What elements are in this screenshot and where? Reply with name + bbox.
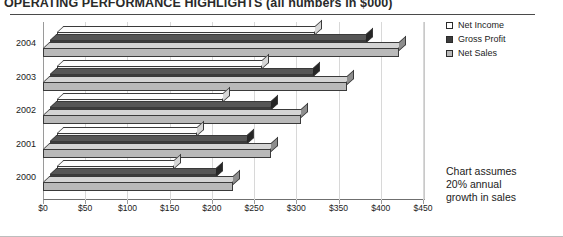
x-axis-tick — [127, 200, 128, 204]
y-axis-label-2004: 2004 — [2, 38, 36, 48]
x-axis-tick — [254, 200, 255, 204]
bar-end-cap — [247, 128, 254, 143]
bar-group-2003 — [43, 59, 425, 93]
x-axis-label-usd-450: $450 — [413, 203, 432, 213]
bar-group-2002 — [43, 92, 425, 126]
bar-group-2000 — [43, 159, 425, 193]
bar-end-cap — [347, 69, 354, 84]
bar-end-cap — [233, 170, 240, 185]
x-axis-tick — [381, 200, 382, 204]
x-axis-tick — [43, 200, 44, 204]
bottom-divider — [0, 236, 563, 237]
bar-group-2004 — [43, 25, 425, 59]
annotation-line-1: Chart assumes — [446, 165, 558, 178]
bar-2000-net-sales[interactable] — [43, 182, 233, 191]
bar-face — [43, 149, 271, 158]
annotation-line-2: 20% annual — [446, 178, 558, 191]
legend-item-net-income[interactable]: Net Income — [446, 19, 506, 31]
x-axis-label-usd-250: $250 — [245, 203, 264, 213]
chart-title: OPERATING PERFORMANCE HIGHLIGHTS (all nu… — [4, 0, 393, 10]
bar-2004-net-sales[interactable] — [43, 48, 399, 57]
x-axis-label-usd-350: $350 — [329, 203, 348, 213]
bar-2003-net-sales[interactable] — [43, 82, 347, 91]
legend-item-net-sales[interactable]: Net Sales — [446, 47, 506, 59]
bar-face — [43, 115, 301, 124]
x-axis-tick — [85, 200, 86, 204]
bar-end-cap — [399, 36, 406, 51]
legend-swatch-net-income-icon — [446, 22, 453, 29]
legend-swatch-net-sales-icon — [446, 50, 453, 57]
x-axis-label-usd-50: $50 — [78, 203, 92, 213]
x-axis-tick — [423, 200, 424, 204]
x-axis-label-usd-0: $0 — [38, 203, 48, 213]
chart-title-subtitle: (all numbers in $000) — [266, 0, 392, 10]
bar-end-cap — [301, 103, 308, 118]
annotation-line-3: growth in sales — [446, 191, 558, 204]
x-axis-label-usd-300: $300 — [287, 203, 306, 213]
bar-face — [43, 48, 399, 57]
y-axis-label-2000: 2000 — [2, 172, 36, 182]
bar-2002-net-sales[interactable] — [43, 115, 301, 124]
x-axis-tick — [339, 200, 340, 204]
legend-label-net-income: Net Income — [458, 20, 504, 30]
x-axis-label-usd-200: $200 — [202, 203, 221, 213]
chart-canvas: OPERATING PERFORMANCE HIGHLIGHTS (all nu… — [0, 0, 563, 237]
x-axis-tick — [296, 200, 297, 204]
x-axis-label-usd-100: $100 — [118, 203, 137, 213]
title-divider — [10, 14, 535, 15]
bar-2001-net-sales[interactable] — [43, 149, 271, 158]
bar-end-cap — [271, 136, 278, 151]
legend-swatch-gross-profit-icon — [446, 36, 453, 43]
chart-title-main: OPERATING PERFORMANCE HIGHLIGHTS — [4, 0, 263, 10]
x-axis-label-usd-150: $150 — [160, 203, 179, 213]
bar-end-cap — [366, 28, 373, 43]
bar-face — [43, 182, 233, 191]
x-axis-tick — [170, 200, 171, 204]
x-axis-label-usd-400: $400 — [371, 203, 390, 213]
y-axis-label-2001: 2001 — [2, 139, 36, 149]
legend-item-gross-profit[interactable]: Gross Profit — [446, 33, 506, 45]
bar-end-cap — [271, 95, 278, 110]
chart-annotation: Chart assumes 20% annual growth in sales — [446, 165, 558, 204]
plot-area — [43, 22, 425, 200]
bar-end-cap — [313, 61, 320, 76]
legend-label-net-sales: Net Sales — [458, 48, 497, 58]
bar-group-2001 — [43, 126, 425, 160]
x-axis-tick — [212, 200, 213, 204]
legend-label-gross-profit: Gross Profit — [458, 34, 506, 44]
chart-legend: Net Income Gross Profit Net Sales — [446, 19, 506, 61]
y-axis-label-2002: 2002 — [2, 105, 36, 115]
y-axis-label-2003: 2003 — [2, 72, 36, 82]
bar-face — [43, 82, 347, 91]
bar-end-cap — [216, 162, 223, 177]
